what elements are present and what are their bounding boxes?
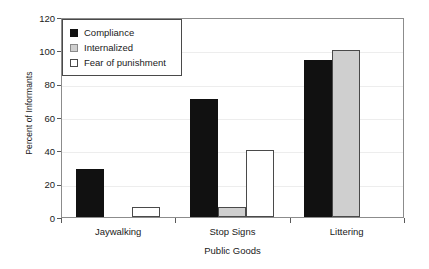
bar-chart-figure: Percent of Informants 120 100 80 60 40 2… <box>0 0 429 269</box>
x-tick-label-littering: Littering <box>290 226 404 237</box>
bar-stopsigns-compliance <box>190 99 218 217</box>
empty-square-icon <box>70 59 78 67</box>
y-tick-label-60: 60 <box>25 114 55 124</box>
y-tick-label-20: 20 <box>25 180 55 190</box>
y-tick-label-40: 40 <box>25 147 55 157</box>
y-tick-label-100: 100 <box>25 47 55 57</box>
x-tick-label-jaywalking: Jaywalking <box>61 226 175 237</box>
legend-item-internalized: Internalized <box>70 40 175 55</box>
bar-stopsigns-internalized <box>218 207 246 217</box>
bar-littering-internalized <box>332 50 360 217</box>
y-tick-label-80: 80 <box>25 80 55 90</box>
y-tick-label-0: 0 <box>25 214 55 224</box>
x-tick-label-stop-signs: Stop Signs <box>175 226 289 237</box>
bar-jaywalking-compliance <box>76 169 104 217</box>
bar-stopsigns-fear <box>246 150 274 217</box>
legend-item-compliance: Compliance <box>70 25 175 40</box>
filled-gray-square-icon <box>70 44 78 52</box>
x-tick-mark-right <box>404 218 405 223</box>
legend-label-compliance: Compliance <box>84 28 134 38</box>
filled-black-square-icon <box>70 29 78 37</box>
bar-jaywalking-fear <box>132 207 160 217</box>
x-tick-mark-left <box>61 218 62 223</box>
x-tick-mark-1 <box>175 218 176 223</box>
x-axis-title: Public Goods <box>61 245 404 256</box>
x-tick-mark-2 <box>290 218 291 223</box>
bar-littering-compliance <box>304 60 332 217</box>
y-tick-label-120: 120 <box>25 14 55 24</box>
legend-label-fear-of-punishment: Fear of punishment <box>84 58 166 68</box>
legend-label-internalized: Internalized <box>84 43 133 53</box>
chart-legend: Compliance Internalized Fear of punishme… <box>62 19 182 76</box>
legend-item-fear-of-punishment: Fear of punishment <box>70 55 175 70</box>
